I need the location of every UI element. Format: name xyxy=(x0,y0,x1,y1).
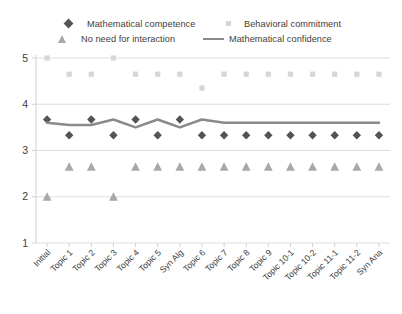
x-tick-label: Topic 6 xyxy=(181,247,207,273)
y-tick-label: 2 xyxy=(22,190,28,202)
data-point-square xyxy=(244,72,249,77)
data-point-square xyxy=(221,72,226,77)
data-point-diamond xyxy=(153,131,161,139)
x-tick-label: Topic 8 xyxy=(225,247,251,273)
legend-label: Mathematical competence xyxy=(87,19,195,29)
data-point-triangle xyxy=(87,162,96,170)
data-point-square xyxy=(288,72,293,77)
data-point-diamond xyxy=(220,131,228,139)
line-marker-icon xyxy=(203,33,225,44)
x-tick-label: Topic 4 xyxy=(115,247,141,273)
legend-item-no-need-for-interaction: No need for interaction xyxy=(55,33,175,44)
data-point-square xyxy=(332,72,337,77)
data-point-triangle xyxy=(352,162,361,170)
series-triangle xyxy=(43,162,384,201)
data-point-diamond xyxy=(131,115,139,123)
series-line xyxy=(47,120,379,128)
data-point-square xyxy=(111,55,116,60)
data-point-triangle xyxy=(242,162,251,170)
data-point-triangle xyxy=(198,162,207,170)
data-point-diamond xyxy=(330,131,338,139)
data-point-triangle xyxy=(131,162,140,170)
series-square xyxy=(44,55,381,90)
data-point-diamond xyxy=(87,115,95,123)
data-point-diamond xyxy=(65,131,73,139)
data-point-diamond xyxy=(109,131,117,139)
data-point-square xyxy=(155,72,160,77)
legend-label: Mathematical confidence xyxy=(229,34,332,44)
data-point-triangle xyxy=(175,162,184,170)
data-point-diamond xyxy=(176,115,184,123)
data-point-diamond xyxy=(242,131,250,139)
x-tick-label: Topic 1 xyxy=(48,247,74,273)
data-point-square xyxy=(266,72,271,77)
data-point-triangle xyxy=(375,162,384,170)
x-axis-ticks: InitialTopic 1Topic 2Topic 3Topic 4Topic… xyxy=(31,243,384,282)
data-point-triangle xyxy=(308,162,317,170)
data-point-square xyxy=(67,72,72,77)
confidence-line xyxy=(47,120,379,128)
data-point-square xyxy=(89,72,94,77)
data-point-triangle xyxy=(286,162,295,170)
chart-svg: 54321 InitialTopic 1Topic 2Topic 3Topic … xyxy=(0,52,402,314)
data-point-triangle xyxy=(65,162,74,170)
x-tick-label: Syn Alg xyxy=(158,247,186,275)
y-tick-label: 3 xyxy=(22,144,28,156)
legend-label: Behavioral commitment xyxy=(244,19,341,29)
x-tick-label: Topic 7 xyxy=(203,247,229,273)
y-tick-label: 5 xyxy=(22,52,28,64)
data-point-triangle xyxy=(220,162,229,170)
data-point-square xyxy=(376,72,381,77)
legend-item-mathematical-confidence: Mathematical confidence xyxy=(203,33,332,44)
x-tick-label: Topic 3 xyxy=(93,247,119,273)
data-point-triangle xyxy=(330,162,339,170)
data-point-diamond xyxy=(286,131,294,139)
diamond-marker-icon xyxy=(61,18,83,29)
data-point-diamond xyxy=(198,131,206,139)
data-point-square xyxy=(44,55,49,60)
triangle-marker-icon xyxy=(55,33,77,44)
data-point-square xyxy=(177,72,182,77)
series-diamond xyxy=(43,115,383,139)
chart-legend: Mathematical competence No need for inte… xyxy=(55,18,390,50)
data-point-triangle xyxy=(153,162,162,170)
y-tick-label: 4 xyxy=(22,98,28,110)
square-marker-icon xyxy=(218,18,240,29)
legend-label: No need for interaction xyxy=(81,34,175,44)
chart-container: Mathematical competence No need for inte… xyxy=(0,0,402,314)
x-tick-label: Topic 2 xyxy=(70,247,96,273)
data-point-square xyxy=(199,85,204,90)
legend-item-mathematical-competence: Mathematical competence xyxy=(61,18,195,29)
data-point-diamond xyxy=(308,131,316,139)
gridlines-group xyxy=(36,55,390,243)
data-point-square xyxy=(354,72,359,77)
data-point-triangle xyxy=(264,162,273,170)
y-tick-label: 1 xyxy=(22,237,28,249)
legend-item-behavioral-commitment: Behavioral commitment xyxy=(218,18,341,29)
data-point-diamond xyxy=(353,131,361,139)
data-point-square xyxy=(133,72,138,77)
data-series-group xyxy=(43,55,384,200)
data-point-square xyxy=(310,72,315,77)
y-axis-ticks: 54321 xyxy=(22,52,36,249)
data-point-diamond xyxy=(264,131,272,139)
plot-area: 54321 InitialTopic 1Topic 2Topic 3Topic … xyxy=(0,52,402,314)
data-point-diamond xyxy=(375,131,383,139)
